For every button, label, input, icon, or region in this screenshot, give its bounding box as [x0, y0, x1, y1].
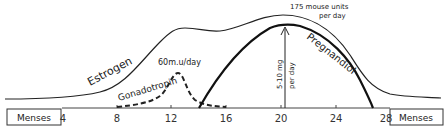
tick-16: 16 — [220, 113, 233, 124]
estrogen-peak-label-line1: 175 mouse units — [290, 3, 349, 11]
menses-label-left: Menses — [17, 113, 51, 123]
estrogen-curve — [5, 15, 441, 99]
pregnandiol-label: Pregnandiol — [305, 31, 358, 76]
tick-12: 12 — [165, 113, 178, 124]
tick-20: 20 — [275, 113, 288, 124]
pregnandiol-peak-label-line1: 5-10 mg — [276, 60, 284, 89]
diagram-canvas: 4 8 12 16 20 24 28 Menses Menses Estroge… — [0, 0, 446, 128]
tick-8: 8 — [114, 113, 120, 124]
pregnandiol-peak-label-line2: per day — [288, 62, 296, 89]
tick-24: 24 — [330, 113, 343, 124]
estrogen-peak-label-line2: per day — [319, 12, 346, 20]
menses-label-right: Menses — [399, 113, 433, 123]
estrogen-label: Estrogen — [85, 54, 134, 88]
gonadotropin-peak-label: 60m.u/day — [158, 58, 201, 67]
hormone-cycle-diagram: 4 8 12 16 20 24 28 Menses Menses Estroge… — [0, 0, 446, 128]
gonadotropin-label: Gonadotropin — [117, 75, 179, 103]
